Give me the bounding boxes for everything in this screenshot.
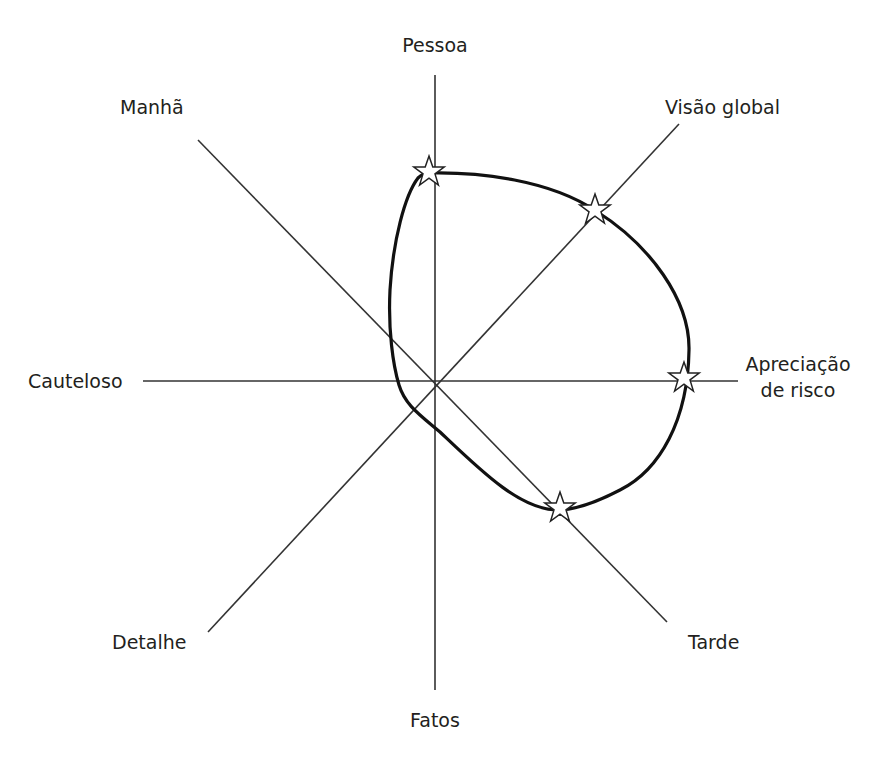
star-icon xyxy=(545,492,575,521)
star-markers xyxy=(414,156,699,521)
star-icon xyxy=(669,362,699,391)
axis-label-cauteloso: Cauteloso xyxy=(28,369,123,395)
axis-label-fatos: Fatos xyxy=(410,708,460,734)
axis-label-pessoa: Pessoa xyxy=(402,33,468,59)
axis-label-apreciacao-de-risco: Apreciação de risco xyxy=(745,352,850,403)
axis-label-apreciacao-line1: Apreciação xyxy=(745,352,850,378)
axis-label-detalhe: Detalhe xyxy=(112,630,186,656)
axis-label-visao-global: Visão global xyxy=(665,95,780,121)
axis-label-manha: Manhã xyxy=(120,95,184,121)
axis-diagonal-detalhe-visao xyxy=(208,124,679,632)
axis-label-tarde: Tarde xyxy=(688,630,739,656)
star-icon xyxy=(414,156,444,185)
axis-label-apreciacao-line2: de risco xyxy=(745,378,850,404)
